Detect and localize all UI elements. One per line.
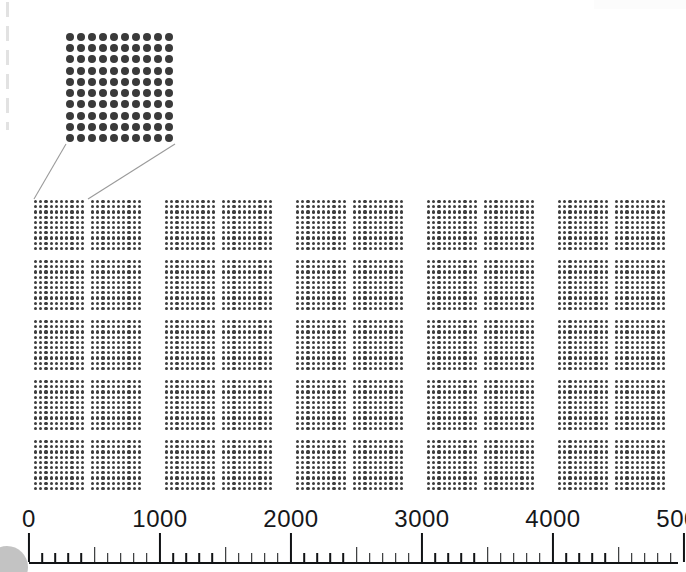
- dot: [520, 260, 523, 263]
- dot: [70, 221, 73, 224]
- dot: [296, 396, 299, 399]
- dot: [463, 205, 466, 208]
- dot: [389, 325, 392, 328]
- dot: [353, 466, 356, 469]
- dot: [646, 461, 649, 464]
- dot: [443, 450, 446, 453]
- dot: [50, 325, 53, 328]
- dot: [44, 260, 47, 263]
- dot: [625, 200, 628, 203]
- dot: [662, 482, 665, 485]
- dot: [662, 487, 665, 490]
- dot: [558, 236, 561, 239]
- dot: [50, 320, 53, 323]
- dot: [458, 270, 461, 273]
- dot: [489, 270, 492, 273]
- dot: [494, 247, 497, 250]
- dot: [484, 456, 487, 459]
- dot: [620, 416, 623, 419]
- dot: [631, 325, 634, 328]
- dot: [374, 286, 377, 289]
- dot: [657, 476, 660, 479]
- dot: [248, 416, 251, 419]
- dot: [469, 390, 472, 393]
- dot: [322, 231, 325, 234]
- dot: [312, 307, 315, 310]
- dot: [91, 231, 94, 234]
- dot: [400, 296, 403, 299]
- dot: [500, 362, 503, 365]
- dot: [181, 416, 184, 419]
- dot: [427, 247, 430, 250]
- dot: [568, 466, 571, 469]
- dot: [574, 461, 577, 464]
- dot-grid: [426, 379, 478, 431]
- dot: [432, 296, 435, 299]
- dot: [317, 216, 320, 219]
- dot: [50, 242, 53, 245]
- dot: [232, 461, 235, 464]
- dot: [600, 380, 603, 383]
- dot: [494, 362, 497, 365]
- dot: [207, 341, 210, 344]
- dot: [127, 276, 130, 279]
- dot: [301, 341, 304, 344]
- dot: [165, 286, 168, 289]
- dot: [374, 411, 377, 414]
- dot: [615, 200, 618, 203]
- dot: [312, 476, 315, 479]
- dot: [212, 330, 215, 333]
- dot: [181, 231, 184, 234]
- dot: [317, 385, 320, 388]
- dot: [510, 385, 513, 388]
- dot: [379, 385, 382, 388]
- dot: [531, 471, 534, 474]
- dot-grid: [33, 259, 85, 311]
- dot: [605, 401, 608, 404]
- dot: [636, 411, 639, 414]
- dot: [520, 341, 523, 344]
- dot: [65, 440, 68, 443]
- dot: [458, 286, 461, 289]
- dot: [484, 356, 487, 359]
- dot: [515, 416, 518, 419]
- dot: [469, 445, 472, 448]
- dot: [484, 440, 487, 443]
- magnified-dot: [165, 100, 173, 108]
- dot: [384, 411, 387, 414]
- dot: [127, 427, 130, 430]
- callout-line-right: [88, 144, 175, 199]
- dot: [657, 401, 660, 404]
- dot: [332, 411, 335, 414]
- dot: [317, 461, 320, 464]
- dot: [641, 346, 644, 349]
- dot: [65, 205, 68, 208]
- dot: [343, 302, 346, 305]
- dot: [96, 396, 99, 399]
- dot: [81, 281, 84, 284]
- dot: [363, 380, 366, 383]
- dot: [327, 416, 330, 419]
- magnified-dot: [110, 44, 118, 52]
- dot: [579, 296, 582, 299]
- dot: [662, 396, 665, 399]
- dot: [269, 320, 272, 323]
- dot: [363, 260, 366, 263]
- dot: [322, 466, 325, 469]
- dot: [453, 242, 456, 245]
- dot: [384, 396, 387, 399]
- dot: [338, 276, 341, 279]
- dot: [363, 450, 366, 453]
- dot: [641, 226, 644, 229]
- axis-tick-minor: [264, 553, 266, 562]
- dot: [186, 356, 189, 359]
- axis-label-0: 0: [22, 505, 36, 533]
- dot: [474, 291, 477, 294]
- dot: [112, 307, 115, 310]
- dot: [469, 330, 472, 333]
- dot: [636, 396, 639, 399]
- dot: [127, 336, 130, 339]
- dot: [631, 385, 634, 388]
- dot: [332, 330, 335, 333]
- dot: [81, 445, 84, 448]
